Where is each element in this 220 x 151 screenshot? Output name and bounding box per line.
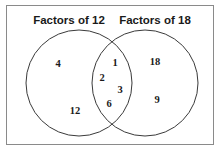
- element-right-only: 18: [150, 56, 161, 67]
- set-label-factors-of-12: Factors of 12: [33, 14, 105, 26]
- set-label-factors-of-18: Factors of 18: [119, 14, 191, 26]
- element-left-only: 4: [55, 58, 61, 69]
- element-intersection: 3: [117, 84, 122, 95]
- set-circle-factors-of-18: [92, 30, 198, 136]
- venn-diagram: Factors of 12 Factors of 18 4 12 1 2 3 6…: [0, 0, 220, 151]
- element-left-only: 12: [70, 105, 81, 116]
- set-circle-factors-of-12: [26, 30, 132, 136]
- element-intersection: 1: [112, 57, 117, 68]
- element-intersection: 6: [106, 98, 111, 109]
- element-right-only: 9: [154, 94, 159, 105]
- element-intersection: 2: [99, 72, 104, 83]
